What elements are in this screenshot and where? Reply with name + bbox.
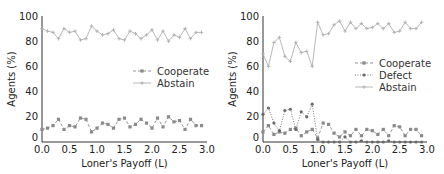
figure: 0204060801000.00.51.01.52.02.53.0Loner's… [0, 0, 444, 174]
legend: CooperateAbstain [127, 63, 209, 91]
x-tick-label: 1.0 [89, 144, 105, 155]
chart-panel-left: 0204060801000.00.51.01.52.02.53.0Loner's… [6, 11, 215, 170]
x-tick-label: 0.0 [255, 144, 271, 155]
series-defect [261, 103, 423, 144]
series-cooperate [40, 115, 203, 133]
series-abstain [40, 24, 203, 43]
y-tick-label: 100 [19, 11, 38, 22]
y-tick-label: 0 [253, 132, 259, 143]
y-tick-label: 40 [25, 86, 38, 97]
y-tick-label: 20 [246, 111, 259, 122]
x-tick-label: 0.5 [282, 144, 298, 155]
y-axis-label: Agents (%) [6, 51, 17, 106]
legend-item-cooperate: Cooperate [379, 58, 431, 69]
x-tick-label: 1.5 [117, 144, 133, 155]
chart-panel-right: 0204060801000.00.51.01.52.02.53.0Loner's… [227, 11, 435, 170]
x-tick-label: 3.0 [419, 144, 435, 155]
y-tick-label: 60 [246, 61, 259, 72]
legend-item-abstain: Abstain [157, 78, 195, 89]
legend-item-defect: Defect [379, 70, 412, 81]
y-tick-label: 80 [25, 36, 38, 47]
x-tick-label: 1.0 [310, 144, 326, 155]
x-tick-label: 2.5 [172, 144, 188, 155]
y-tick-label: 0 [32, 132, 38, 143]
y-tick-label: 60 [25, 61, 38, 72]
x-tick-label: 2.5 [392, 144, 408, 155]
x-tick-label: 3.0 [199, 144, 215, 155]
x-tick-label: 1.5 [337, 144, 353, 155]
y-axis-label: Agents (%) [227, 51, 238, 106]
x-tick-label: 0.0 [34, 144, 50, 155]
legend-item-abstain: Abstain [379, 82, 417, 93]
series-cooperate [261, 122, 423, 140]
x-tick-label: 0.5 [62, 144, 78, 155]
legend-item-cooperate: Cooperate [157, 66, 209, 77]
x-tick-label: 2.0 [144, 144, 160, 155]
y-tick-label: 100 [240, 11, 259, 22]
y-tick-label: 80 [246, 36, 259, 47]
y-tick-label: 20 [25, 111, 38, 122]
y-tick-label: 40 [246, 86, 259, 97]
legend: CooperateDefectAbstain [349, 55, 431, 95]
x-axis-label: Loner's Payoff (L) [81, 158, 168, 169]
x-axis-label: Loner's Payoff (L) [302, 158, 389, 169]
x-tick-label: 2.0 [364, 144, 380, 155]
